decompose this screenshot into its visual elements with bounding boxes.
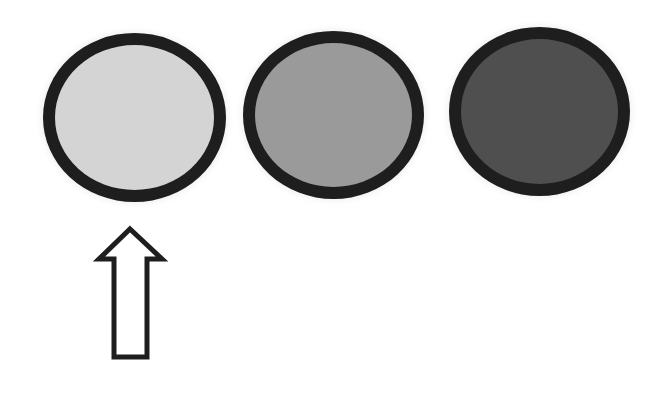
up-arrow-icon [0,0,664,400]
diagram-canvas [0,0,664,400]
arrow-shape [99,229,162,357]
